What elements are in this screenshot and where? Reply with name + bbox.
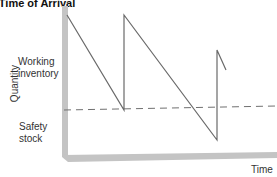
- safety-stock-line: [64, 106, 277, 110]
- chart-plot: [0, 0, 277, 177]
- y-axis: [62, 6, 68, 157]
- x-axis: [62, 152, 277, 162]
- inventory-line: [67, 15, 226, 140]
